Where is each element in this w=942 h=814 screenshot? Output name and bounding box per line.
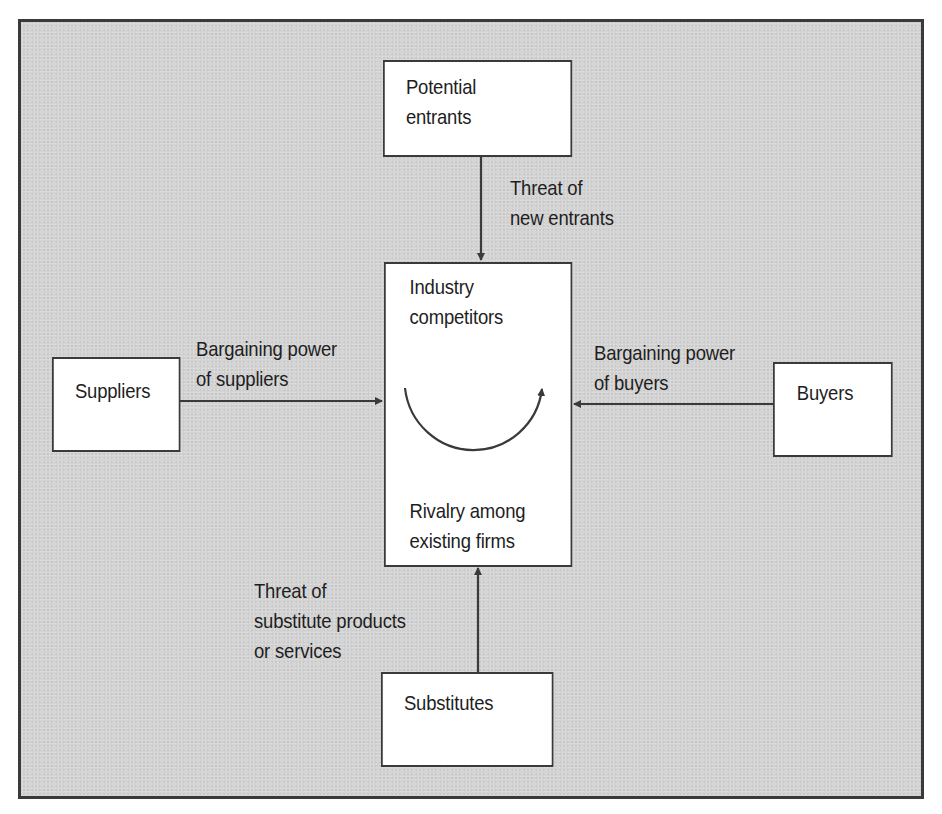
buyers-box: Buyers (773, 362, 893, 457)
buyers-label: Buyers (797, 378, 853, 408)
potential-entrants-label-line1: Potential (406, 72, 476, 102)
substitute-threat-line1: Threat of (254, 576, 406, 606)
supplier-power-line2: of suppliers (196, 364, 337, 394)
potential-entrants-box: Potential entrants (383, 60, 572, 157)
supplier-power-label: Bargaining power of suppliers (196, 334, 337, 394)
suppliers-box: Suppliers (52, 357, 180, 452)
substitutes-box: Substitutes (381, 672, 553, 767)
potential-entrants-label-line2: entrants (406, 102, 471, 132)
industry-label-line1: Industry (410, 272, 474, 302)
threat-new-entrants-line1: Threat of (510, 173, 614, 203)
supplier-power-line1: Bargaining power (196, 334, 337, 364)
suppliers-label: Suppliers (75, 376, 150, 406)
threat-new-entrants-line2: new entrants (510, 203, 614, 233)
substitute-threat-line2: substitute products (254, 606, 406, 636)
buyer-power-label: Bargaining power of buyers (594, 338, 735, 398)
industry-competitors-box: Industry competitors Rivalry among exist… (384, 262, 572, 567)
buyer-power-line2: of buyers (594, 368, 735, 398)
substitute-threat-line3: or services (254, 636, 406, 666)
rivalry-label-line2: existing firms (410, 526, 515, 556)
rivalry-label-line1: Rivalry among (410, 496, 526, 526)
industry-label-line2: competitors (410, 302, 504, 332)
substitute-threat-label: Threat of substitute products or service… (254, 576, 406, 666)
threat-new-entrants-label: Threat of new entrants (510, 173, 614, 233)
buyer-power-line1: Bargaining power (594, 338, 735, 368)
substitutes-label: Substitutes (404, 688, 493, 718)
